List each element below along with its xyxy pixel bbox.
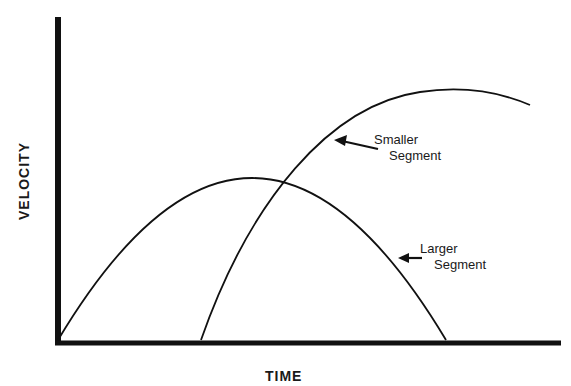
larger-annotation-line2: Segment — [434, 257, 486, 272]
smaller-annotation-line2: Segment — [389, 148, 441, 163]
larger-segment-curve — [58, 178, 446, 340]
larger-annotation-line1: Larger — [420, 241, 458, 256]
y-axis-label: VELOCITY — [16, 142, 32, 220]
smaller-segment-arrow — [334, 135, 378, 149]
velocity-time-diagram: Smaller Segment Larger Segment TIME VELO… — [0, 0, 571, 386]
smaller-annotation-line1: Smaller — [374, 132, 419, 147]
larger-segment-arrow — [398, 253, 422, 263]
x-axis-label: TIME — [265, 368, 302, 384]
smaller-segment-curve — [201, 89, 530, 340]
